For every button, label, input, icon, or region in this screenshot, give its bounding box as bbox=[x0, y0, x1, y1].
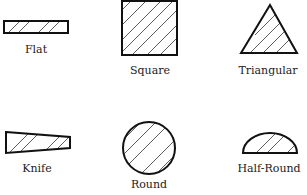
square-shape-icon bbox=[122, 0, 177, 55]
triangular-shape-icon bbox=[241, 5, 297, 53]
triangular-label: Triangular bbox=[238, 65, 297, 76]
square-label: Square bbox=[130, 65, 170, 76]
half-round-label: Half-Round bbox=[237, 163, 300, 174]
knife-shape-icon bbox=[6, 132, 74, 153]
flat-shape-icon bbox=[4, 21, 68, 33]
half-round-shape-icon bbox=[243, 133, 297, 153]
round-label: Round bbox=[131, 179, 167, 190]
flat-label: Flat bbox=[25, 44, 47, 55]
knife-label: Knife bbox=[22, 163, 51, 174]
round-shape-icon bbox=[123, 110, 180, 175]
